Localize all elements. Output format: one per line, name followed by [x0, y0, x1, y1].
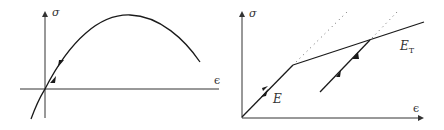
reloading-up-arrow-icon — [336, 70, 341, 77]
tangent-modulus-label: ET — [399, 39, 415, 55]
tangent-modulus-subscript: T — [409, 46, 415, 55]
right-epsilon-label: ϵ — [413, 102, 419, 115]
left-nonlinear-curve — [31, 15, 200, 119]
stress-strain-diagrams: σ ϵ σ ϵ E ET — [0, 0, 444, 130]
unloading-arrow-icon — [58, 60, 64, 67]
left-sigma-label: σ — [52, 6, 60, 19]
right-panel: σ ϵ E ET — [242, 7, 424, 118]
unloading-down-arrow-icon — [352, 52, 359, 59]
dotted-elastic-extension-1 — [296, 12, 347, 62]
left-epsilon-label: ϵ — [214, 74, 220, 87]
elastic-modulus-label: E — [272, 92, 282, 106]
left-panel: σ ϵ — [20, 6, 220, 119]
right-sigma-label: σ — [249, 7, 257, 20]
dotted-elastic-extension-2 — [372, 11, 398, 38]
elastic-loading-line — [242, 65, 293, 117]
